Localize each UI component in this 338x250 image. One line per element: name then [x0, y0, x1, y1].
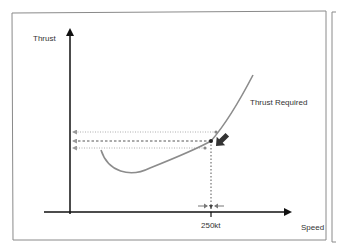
next-panel-edge — [332, 12, 336, 242]
curve-point-lower — [203, 146, 206, 149]
diagram-frame — [12, 11, 326, 240]
y-axis-label: Thrust — [33, 34, 56, 43]
thrust-speed-diagram: Thrust Speed Thrust Required 250kt — [0, 0, 338, 250]
speed-marker — [198, 204, 224, 218]
thrust-required-curve — [101, 75, 253, 173]
pointer-arrow-icon — [212, 130, 232, 150]
curve-point-upper — [214, 130, 217, 133]
x-axis-label: Speed — [301, 223, 324, 232]
curve-point-current — [209, 139, 213, 143]
curve-label: Thrust Required — [250, 98, 307, 107]
speed-marker-label: 250kt — [201, 221, 221, 230]
